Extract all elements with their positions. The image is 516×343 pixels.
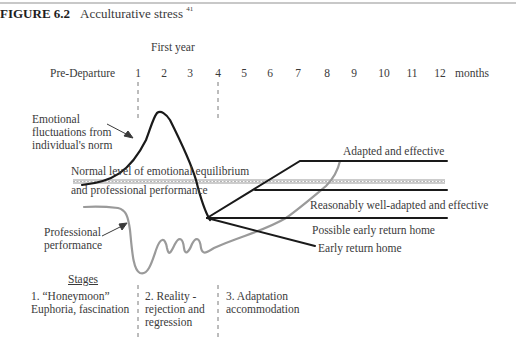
stage-2-line2: rejection and (145, 303, 205, 316)
outcome-early-return-label: Early return home (318, 242, 402, 255)
stage-3-line1: 3. Adaptation (226, 290, 288, 303)
stage-2-line3: regression (145, 316, 192, 329)
outcome-possible-return-label: Possible early return home (312, 224, 435, 237)
outcome-adapted-label: Adapted and effective (343, 145, 444, 158)
stages-heading: Stages (68, 273, 98, 286)
equilibrium-band (73, 180, 445, 183)
professional-label-1: Professional (44, 226, 101, 239)
normal-level-label-1: Normal level of emotional equilibrium (71, 165, 249, 178)
emotional-label-3: individual's norm (32, 139, 112, 152)
stage-1-line1: 1. “Honeymoon” (31, 290, 110, 303)
normal-level-label-2: and professional performance (71, 184, 208, 197)
emotional-label-1: Emotional (32, 113, 80, 126)
stage-3-line2: accommodation (226, 303, 299, 316)
professional-label-2: performance (44, 239, 102, 252)
outcome-reasonably-label: Reasonably well-adapted and effective (310, 199, 488, 212)
emotional-label-2: fluctuations from (32, 126, 112, 139)
stage-2-line1: 2. Reality - (145, 290, 196, 303)
stage-1-line2: Euphoria, fascination (31, 303, 129, 316)
